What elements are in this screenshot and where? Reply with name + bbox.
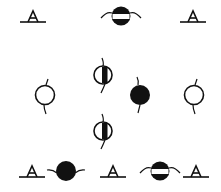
- triangle-on-line-icon: [180, 11, 206, 22]
- triangle-on-line-icon: [20, 11, 46, 22]
- filled-circle-icon: [130, 77, 150, 113]
- open-circle-icon: [36, 79, 55, 114]
- filled-circle-h-icon: [47, 161, 85, 181]
- symbols-layer: [19, 7, 209, 182]
- open-circle-icon: [185, 79, 204, 114]
- triangle-on-line-icon: [19, 166, 45, 177]
- half-circle-vertical-icon: [94, 58, 112, 93]
- triangle-on-line-icon: [100, 166, 126, 177]
- banded-circle-icon: [101, 7, 141, 26]
- symbol-diagram: [0, 0, 221, 192]
- banded-circle-icon: [140, 162, 180, 181]
- half-circle-vertical-icon: [94, 114, 112, 149]
- triangle-on-line-icon: [183, 166, 209, 177]
